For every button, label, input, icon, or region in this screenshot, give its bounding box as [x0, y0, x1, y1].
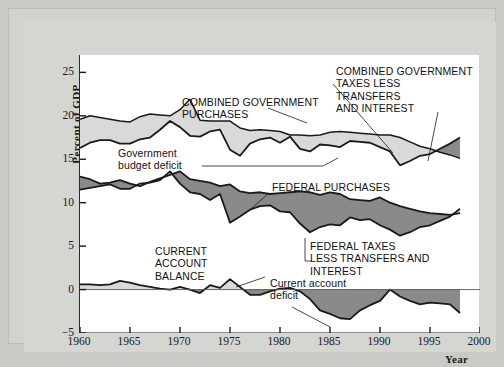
y-tick-label-5: 5	[44, 239, 74, 251]
annotation-combined-government-taxes: COMBINED GOVERNMENT TAXES LESS TRANSFERS…	[336, 65, 473, 115]
x-tick-label-1990: 1990	[359, 335, 399, 347]
leader-budget-deficit	[202, 158, 338, 166]
annotation-federal-taxes: FEDERAL TAXES LESS TRANSFERS AND INTERES…	[310, 240, 479, 277]
annotation-combined-government-purchases: COMBINED GOVERNMENT PURCHASES	[182, 96, 319, 121]
x-tick-label-1985: 1985	[309, 335, 349, 347]
y-tick-label-20: 20	[44, 109, 74, 121]
x-tick-label-1995: 1995	[409, 335, 449, 347]
y-tick-label-15: 15	[44, 152, 74, 164]
annotation-current-account-deficit: Current account deficit	[270, 277, 346, 302]
annotation-federal-purchases: FEDERAL PURCHASES	[272, 181, 390, 193]
annotation-current-account-balance: CURRENT ACCOUNT BALANCE	[155, 245, 208, 282]
leader-combined-taxes-2	[428, 112, 438, 161]
y-tick-label-0: 0	[44, 283, 74, 295]
x-tick-label-1960: 1960	[59, 335, 99, 347]
x-tick-label-1965: 1965	[109, 335, 149, 347]
x-tick-label-1970: 1970	[159, 335, 199, 347]
figure-mat: Percent of GDP Year 2520151050−5 1960196…	[8, 8, 496, 344]
y-tick-label-25: 25	[44, 65, 74, 77]
figure-page: Percent of GDP Year 2520151050−5 1960196…	[0, 0, 504, 367]
x-axis-title: Year	[445, 353, 468, 365]
annotation-government-budget-deficit: Government budget deficit	[118, 147, 182, 172]
plot-area: COMBINED GOVERNMENT PURCHASES COMBINED G…	[79, 55, 479, 333]
y-tick-label-10: 10	[44, 196, 74, 208]
leader-current-account-balance	[236, 277, 265, 287]
x-tick-label-1980: 1980	[259, 335, 299, 347]
band-current-account-7	[390, 290, 460, 313]
chart-figure: Percent of GDP Year 2520151050−5 1960196…	[24, 22, 496, 352]
x-tick-label-1975: 1975	[209, 335, 249, 347]
x-tick-label-2000: 2000	[459, 335, 499, 347]
